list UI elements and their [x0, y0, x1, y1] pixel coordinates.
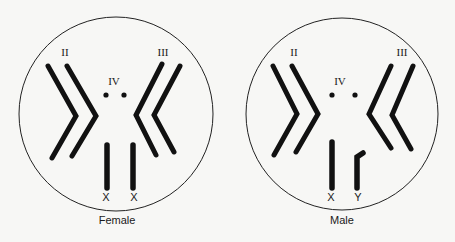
female-chromosome-2a: [48, 66, 76, 158]
female-label-chromosome-4: IV: [108, 75, 120, 87]
female-label-x1: X: [102, 191, 110, 203]
female-chromosome-3b: [154, 66, 180, 152]
male-panel: II III IV X Y Male: [246, 18, 438, 226]
female-label-chromosome-3: III: [158, 46, 169, 58]
male-label-y: Y: [354, 191, 362, 203]
male-caption: Male: [330, 214, 354, 226]
female-label-x2: X: [130, 191, 138, 203]
female-caption: Female: [99, 214, 136, 226]
male-label-chromosome-3: III: [397, 46, 408, 58]
male-chromosome-4b: [352, 92, 357, 97]
female-chromosome-4b: [121, 92, 126, 97]
female-label-chromosome-2: II: [61, 46, 69, 58]
male-chromosome-2a: [273, 66, 297, 155]
chromosome-diagram: II III IV X X Female II III IV: [0, 0, 455, 242]
female-panel: II III IV X X Female: [19, 17, 213, 226]
male-cell-outline: [246, 18, 438, 210]
male-chromosome-4a: [329, 92, 334, 97]
male-chromosome-3b: [392, 66, 413, 149]
male-chromosome-y: [357, 153, 363, 188]
male-label-x: X: [327, 191, 335, 203]
male-label-chromosome-4: IV: [334, 75, 346, 87]
female-cell-outline: [19, 17, 213, 211]
female-chromosome-4a: [103, 92, 108, 97]
male-label-chromosome-2: II: [290, 46, 298, 58]
male-chromosome-3a: [369, 66, 391, 148]
